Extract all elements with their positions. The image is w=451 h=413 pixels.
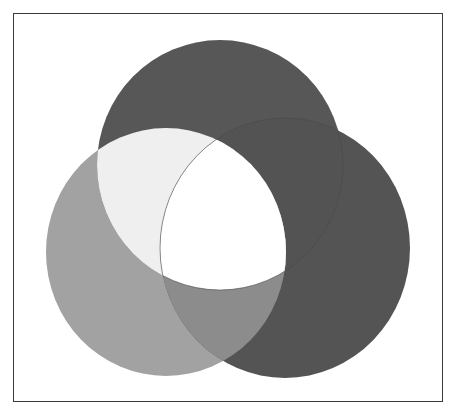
venn-diagram	[0, 0, 451, 413]
